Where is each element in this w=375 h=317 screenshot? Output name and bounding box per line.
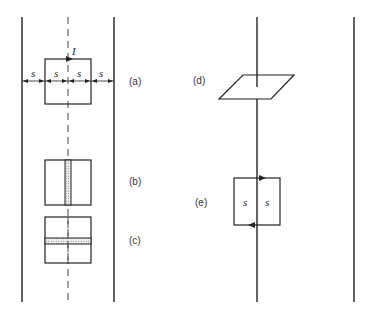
panel-c: (c) bbox=[45, 217, 141, 263]
panel-label-e: (e) bbox=[195, 197, 207, 208]
spacing-label: s bbox=[99, 67, 103, 79]
panel-a: I s s s s (a) bbox=[22, 45, 141, 104]
current-label: I bbox=[71, 45, 77, 57]
panel-label-a: (a) bbox=[129, 76, 141, 87]
panel-d: (d) bbox=[193, 75, 294, 99]
panel-label-c: (c) bbox=[129, 235, 141, 246]
panel-label-d: (d) bbox=[193, 75, 205, 86]
spacing-label: s bbox=[54, 67, 58, 79]
physics-figure: I s s s s (a) (b) (c) bbox=[0, 0, 375, 317]
current-arrow-bottom-icon bbox=[248, 222, 255, 228]
spacing-label: s bbox=[77, 67, 81, 79]
shaded-strip-vertical bbox=[65, 160, 71, 205]
spacing-label: s bbox=[265, 196, 269, 208]
panel-label-b: (b) bbox=[129, 176, 141, 187]
spacing-label: s bbox=[31, 67, 35, 79]
current-arrow-top-icon bbox=[259, 175, 266, 181]
panel-b: (b) bbox=[45, 160, 141, 205]
panel-e: s s (e) bbox=[195, 175, 280, 228]
spacing-label: s bbox=[243, 196, 247, 208]
